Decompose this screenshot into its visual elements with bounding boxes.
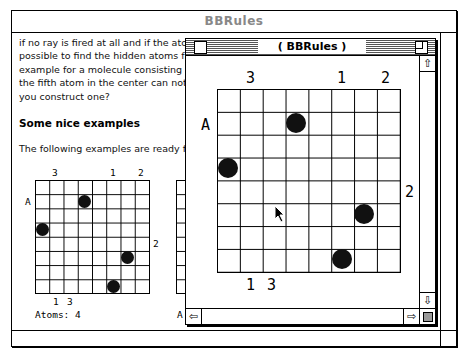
atom[interactable] — [218, 158, 238, 178]
atoms-count: Atoms: 4 — [35, 309, 81, 320]
inner-window-titlebar[interactable]: ( BBRules ) — [186, 39, 435, 56]
board-bottom-label: 1 — [246, 276, 255, 294]
scroll-left-arrow-icon[interactable]: ⇦ — [186, 309, 202, 324]
atom[interactable] — [332, 249, 352, 269]
atom — [121, 251, 134, 264]
scroll-right-arrow-icon[interactable]: ⇨ — [403, 309, 419, 324]
example-top-label: 3 — [52, 167, 58, 178]
atom[interactable] — [286, 113, 306, 133]
grow-box-icon[interactable] — [419, 308, 435, 324]
outer-grow-box[interactable] — [440, 330, 457, 347]
scroll-down-arrow-icon[interactable]: ⇩ — [420, 292, 435, 308]
close-box-icon[interactable] — [194, 41, 207, 54]
example-board-2-partial[interactable] — [176, 180, 185, 294]
example-bottom-label: 1 — [53, 296, 59, 307]
zoom-box-icon[interactable] — [415, 41, 428, 54]
outer-horizontal-band — [12, 330, 440, 347]
example2-label: A — [177, 309, 183, 320]
outer-window-title[interactable]: BBRules — [12, 11, 456, 33]
inner-horizontal-scrollbar[interactable]: ⇦ ⇨ — [186, 308, 419, 324]
board-right-label: 2 — [405, 183, 414, 201]
inner-window-title: ( BBRules ) — [258, 40, 366, 54]
example-bottom-label: 3 — [67, 296, 73, 307]
intro-text: The following examples are ready for yo — [19, 142, 210, 155]
game-board[interactable] — [217, 89, 401, 273]
atom — [78, 195, 91, 208]
example-top-label: 1 — [110, 167, 116, 178]
mouse-cursor-icon — [274, 205, 286, 223]
example-left-label: A — [25, 196, 31, 207]
outer-vertical-scrollbar[interactable] — [440, 33, 457, 330]
example-board[interactable] — [35, 180, 150, 294]
atom — [36, 223, 49, 236]
atom[interactable] — [354, 204, 374, 224]
section-heading: Some nice examples — [19, 117, 140, 129]
board-left-label: A — [201, 116, 210, 134]
board-bottom-label: 3 — [267, 276, 276, 294]
board-top-label: 2 — [381, 69, 390, 87]
inner-vertical-scrollbar[interactable]: ⇧ ⇩ — [419, 56, 435, 308]
example-right-label: 2 — [153, 238, 159, 249]
atom — [107, 280, 120, 293]
scroll-up-arrow-icon[interactable]: ⇧ — [420, 56, 435, 72]
board-top-label: 1 — [337, 69, 346, 87]
board-top-label: 3 — [246, 69, 255, 87]
example-top-label: 2 — [138, 167, 144, 178]
